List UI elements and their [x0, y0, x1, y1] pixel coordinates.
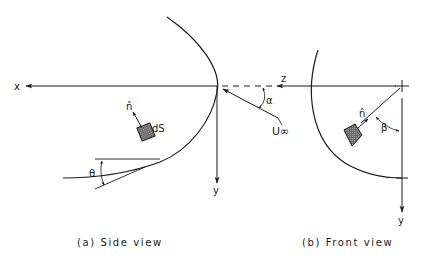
- y-axis-label-front: y: [398, 215, 404, 226]
- x-axis-label: x: [14, 81, 20, 92]
- side-view-panel: x y α U∞ n̂ dS θ (a) Side view: [14, 17, 289, 248]
- theta-angle-arc: [101, 161, 104, 185]
- beta-angle-arc: [376, 117, 399, 131]
- freestream-leader: [278, 118, 282, 125]
- normal-label: n̂: [126, 101, 132, 112]
- theta-label: θ: [89, 168, 95, 179]
- body-cross-section-arc: [311, 50, 402, 178]
- tangent-line: [95, 167, 145, 189]
- normal-vector-arrow: [133, 112, 142, 128]
- beta-label: β: [381, 122, 387, 133]
- alpha-angle-arc: [259, 88, 265, 108]
- front-view-panel: z y β n̂ (b) Front view: [277, 50, 409, 248]
- freestream-label: U∞: [272, 125, 289, 138]
- body-contour-curve: [63, 17, 218, 178]
- radial-line: [361, 88, 400, 123]
- y-axis-label: y: [213, 185, 219, 196]
- surface-element-label: dS: [152, 123, 165, 134]
- alpha-label: α: [266, 95, 273, 106]
- z-axis-label: z: [281, 73, 286, 84]
- front-view-caption: (b) Front view: [302, 237, 393, 248]
- side-view-caption: (a) Side view: [77, 237, 163, 248]
- body-geometry-diagram: x y α U∞ n̂ dS θ (a) Side view z: [0, 0, 425, 264]
- normal-label-front: n̂: [359, 108, 365, 119]
- normal-vector-arrow-front: [357, 119, 368, 129]
